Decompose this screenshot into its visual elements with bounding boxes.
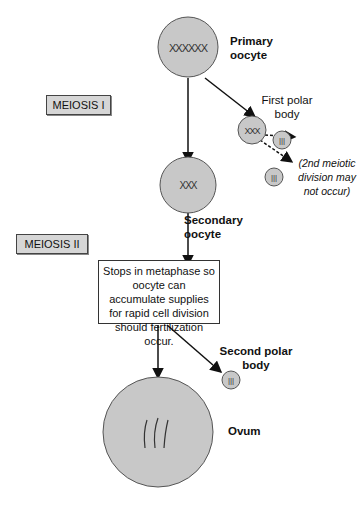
arrow-primary-to-first-polar [205,78,255,117]
polar-note-line1: (2nd meiotic [291,156,363,170]
stage-meiosis-1: MEIOSIS I [46,95,111,115]
first-polar-line1: First polar [255,93,319,107]
primary-oocyte-label: Primary oocyte [230,34,273,62]
metaphase-note-box: Stops in metaphase so oocyte can accumul… [98,260,220,324]
second-polar-line1: Second polar [218,344,294,358]
svg-text:|||: ||| [279,136,285,145]
first-polar-body-label: First polar body [255,93,319,121]
svg-text:XXX: XXX [179,180,197,191]
ovum-label: Ovum [228,424,261,438]
svg-text:XXX: XXX [244,126,260,136]
primary-line2: oocyte [230,48,273,62]
first-polar-line2: body [255,107,319,121]
secondary-oocyte-label: Secondary oocyte [184,213,243,241]
stage-meiosis-2: MEIOSIS II [16,234,88,254]
svg-text:|||: ||| [271,173,277,182]
svg-text:XXXXXX: XXXXXX [169,42,209,54]
secondary-line1: Secondary [184,213,243,227]
polar-note-line3: not occur) [291,184,363,198]
ovum-cell [103,377,213,487]
secondary-line2: oocyte [184,227,243,241]
second-polar-line2: body [218,358,294,372]
polar-division-note: (2nd meiotic division may not occur) [291,156,363,198]
primary-line1: Primary [230,34,273,48]
second-polar-body-label: Second polar body [218,344,294,372]
polar-note-line2: division may [291,170,363,184]
svg-text:|||: ||| [228,376,234,385]
